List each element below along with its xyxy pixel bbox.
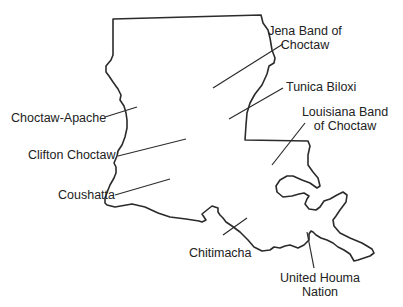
label-tunica-biloxi: Tunica Biloxi: [286, 80, 356, 94]
leader-clifton: [118, 139, 186, 156]
label-clifton-choctaw: Clifton Choctaw: [28, 148, 116, 162]
leader-coushatta: [115, 179, 170, 195]
leader-chitimacha: [223, 218, 247, 235]
leader-houma: [307, 232, 314, 268]
label-jena-band-of-choctaw: Jena Band of Choctaw: [265, 24, 345, 52]
label-line: Louisiana Band: [299, 105, 391, 119]
label-chitimacha: Chitimacha: [189, 246, 252, 260]
label-coushatta: Coushatta: [58, 188, 115, 202]
label-louisiana-band-of-choctaw: Louisiana Band of Choctaw: [299, 105, 391, 133]
label-united-houma-nation: United Houma Nation: [280, 271, 360, 299]
leader-lines: [105, 44, 314, 268]
label-line: of Choctaw: [299, 119, 391, 133]
label-choctaw-apache: Choctaw-Apache: [11, 111, 106, 125]
leader-choctaw-apache: [105, 107, 137, 117]
label-line: Jena Band of: [265, 24, 345, 38]
label-line: United Houma: [280, 271, 360, 285]
label-line: Choctaw: [265, 38, 345, 52]
label-line: Nation: [280, 285, 360, 299]
